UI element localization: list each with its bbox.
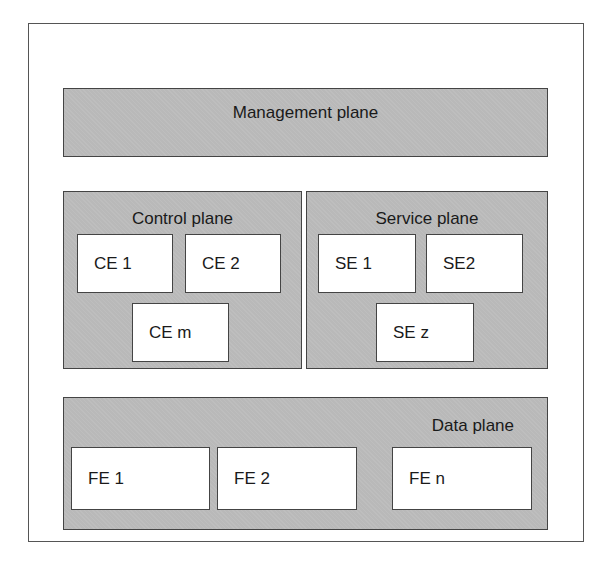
forwarding-element: FE 2	[217, 447, 357, 510]
control-element: CE 1	[77, 234, 173, 293]
forwarding-element: FE 1	[71, 447, 210, 510]
management-plane-label: Management plane	[64, 103, 547, 123]
control-element: CE m	[132, 303, 229, 362]
data-plane-label: Data plane	[432, 416, 514, 436]
forwarding-element-label: FE 1	[88, 469, 124, 489]
service-plane-label: Service plane	[307, 209, 547, 229]
service-element: SE2	[426, 234, 523, 293]
service-element-label: SE z	[393, 323, 429, 343]
control-element-label: CE 1	[94, 254, 132, 274]
forwarding-element: FE n	[392, 447, 532, 510]
forwarding-element-label: FE n	[409, 469, 445, 489]
service-element-label: SE2	[443, 254, 475, 274]
forwarding-element-label: FE 2	[234, 469, 270, 489]
control-element-label: CE m	[149, 323, 192, 343]
control-element: CE 2	[185, 234, 281, 293]
service-element: SE z	[376, 303, 474, 362]
service-element-label: SE 1	[335, 254, 372, 274]
service-element: SE 1	[318, 234, 416, 293]
control-plane-label: Control plane	[64, 209, 301, 229]
management-plane: Management plane	[63, 88, 548, 157]
control-element-label: CE 2	[202, 254, 240, 274]
